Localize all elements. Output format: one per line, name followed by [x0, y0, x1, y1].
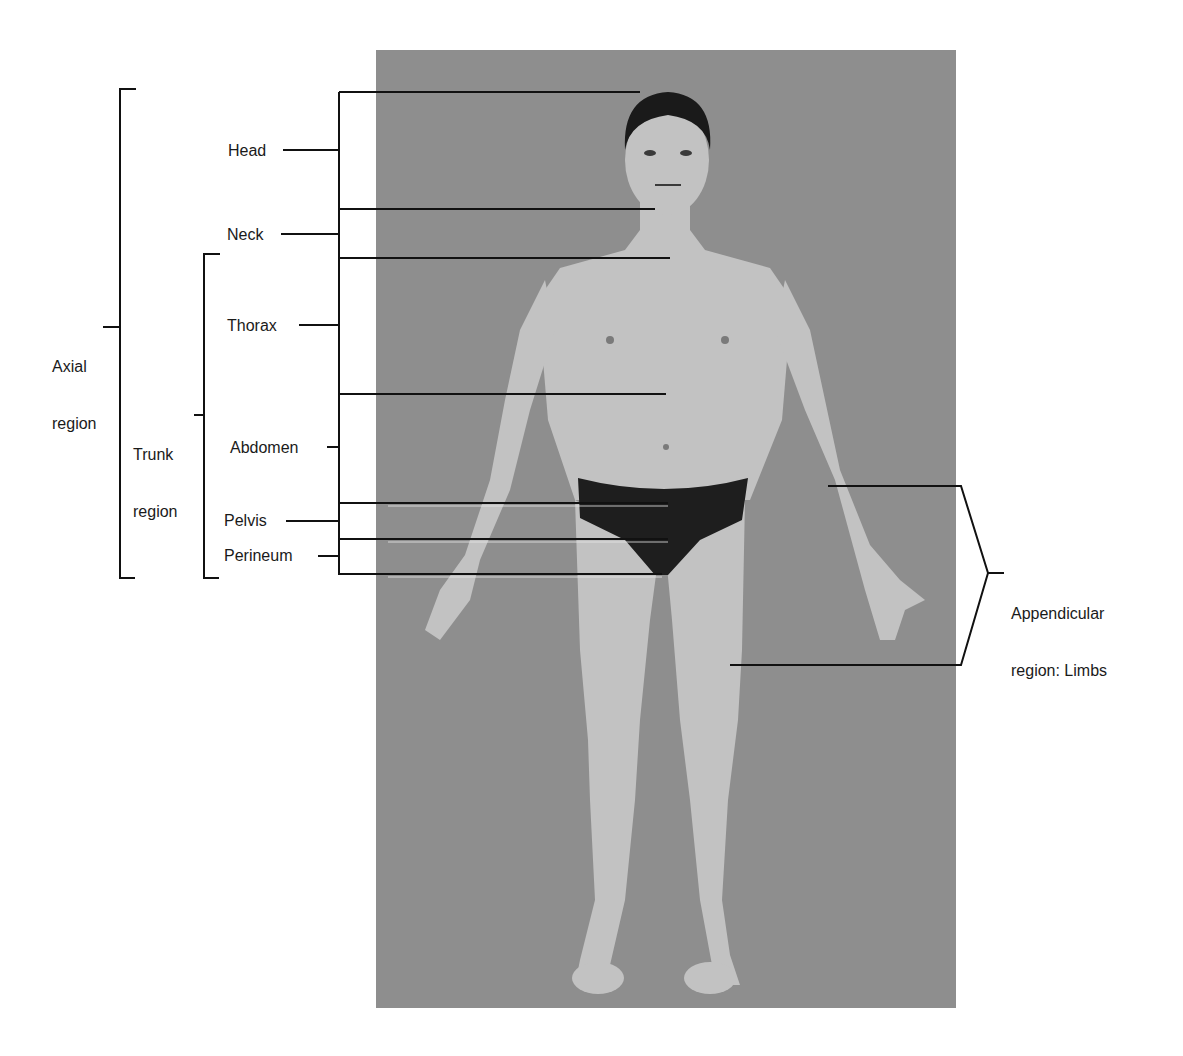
thorax-label: Thorax	[227, 316, 277, 335]
perineum-label: Perineum	[224, 546, 292, 565]
appendicular-label-line1: Appendicular	[1011, 604, 1107, 623]
axial-region-label: Axial region	[52, 319, 96, 471]
trunk-label-line2: region	[133, 502, 177, 521]
axial-label-line1: Axial	[52, 357, 96, 376]
neck-label: Neck	[227, 225, 263, 244]
axial-label-line2: region	[52, 414, 96, 433]
pelvis-label: Pelvis	[224, 511, 267, 530]
head-label: Head	[228, 141, 266, 160]
appendicular-region-label: Appendicular region: Limbs	[1011, 566, 1107, 718]
trunk-label-line1: Trunk	[133, 445, 177, 464]
appendicular-label-line2: region: Limbs	[1011, 661, 1107, 680]
body-regions-figure: Axial region Trunk region Head Neck Thor…	[0, 0, 1183, 1056]
abdomen-label: Abdomen	[230, 438, 299, 457]
trunk-bracket	[204, 254, 220, 578]
trunk-region-label: Trunk region	[133, 407, 177, 559]
